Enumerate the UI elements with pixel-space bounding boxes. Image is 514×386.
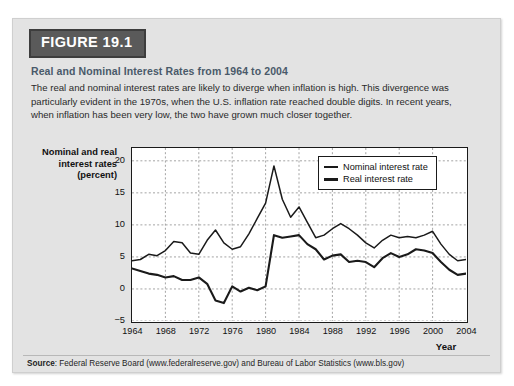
legend-label-nominal: Nominal interest rate — [343, 162, 428, 172]
y-tick-0: 0 — [99, 283, 125, 293]
plot-area: Nominal interest rate Real interest rate — [131, 147, 468, 323]
legend-swatch-nominal-icon — [324, 166, 338, 168]
source-text: : Federal Reserve Board (www.federalrese… — [55, 359, 405, 368]
figure-card: FIGURE 19.1 Real and Nominal Interest Ra… — [12, 18, 501, 373]
y-tick-20: 20 — [99, 155, 125, 165]
chart-region: Nominal and real interest rates (percent… — [31, 145, 483, 345]
x-tick-2004: 2004 — [446, 326, 486, 336]
figure-subtitle: Real and Nominal Interest Rates from 196… — [31, 65, 471, 77]
x-axis-title: Year — [411, 341, 481, 352]
y-tick-10: 10 — [99, 219, 125, 229]
source-note: Source: Federal Reserve Board (www.feder… — [27, 359, 404, 368]
figure-description: The real and nominal interest rates are … — [31, 81, 459, 122]
source-label: Source — [27, 359, 55, 368]
legend-item-nominal: Nominal interest rate — [324, 161, 428, 173]
legend-label-real: Real interest rate — [343, 174, 413, 184]
chart-legend: Nominal interest rate Real interest rate — [318, 156, 437, 190]
y-tick-15: 15 — [99, 187, 125, 197]
legend-swatch-real-icon — [324, 178, 338, 181]
y-tick-5: 5 — [99, 251, 125, 261]
source-divider — [23, 355, 490, 356]
figure-number-badge: FIGURE 19.1 — [29, 29, 146, 58]
y-tick--5: −5 — [99, 315, 125, 325]
legend-item-real: Real interest rate — [324, 173, 428, 185]
